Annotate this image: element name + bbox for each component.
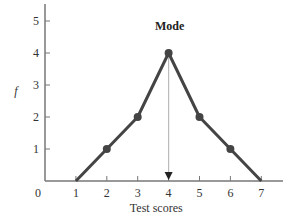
x-axis-label: Test scores (130, 201, 183, 215)
x-tick-label: 3 (135, 186, 141, 200)
x-tick-label: 6 (227, 186, 233, 200)
mode-arrow-icon (165, 172, 173, 180)
data-point-marker (165, 49, 173, 57)
y-tick-label: 1 (33, 142, 39, 156)
mode-label: Mode (155, 19, 185, 33)
x-tick-label: 0 (35, 186, 41, 200)
data-point-marker (103, 145, 111, 153)
x-tick-label: 5 (197, 186, 203, 200)
y-tick-label: 2 (33, 110, 39, 124)
y-tick-label: 4 (33, 46, 39, 60)
data-point-marker (196, 113, 204, 121)
x-tick-label: 4 (166, 186, 172, 200)
data-point-marker (226, 145, 234, 153)
y-tick-label: 5 (33, 14, 39, 28)
x-tick-label: 2 (104, 186, 110, 200)
x-tick-label: 7 (258, 186, 264, 200)
x-tick-label: 1 (73, 186, 79, 200)
frequency-polygon-chart: 1234501234567Test scoresfMode (0, 0, 308, 223)
y-tick-label: 3 (33, 78, 39, 92)
y-axis-label: f (14, 84, 19, 98)
data-point-marker (134, 113, 142, 121)
